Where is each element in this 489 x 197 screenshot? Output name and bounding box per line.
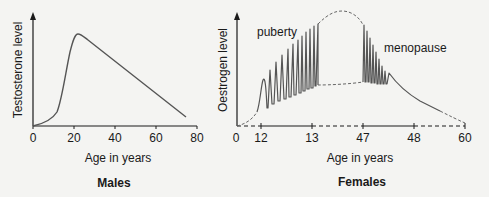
females-x-label: Age in years — [327, 151, 394, 165]
males-y-axis-arrow-icon — [30, 12, 36, 20]
females-xtick-47: 47 — [356, 131, 370, 145]
females-caption: Females — [338, 175, 386, 189]
males-chart: 0 20 40 60 80 Testosterone level Age in … — [11, 12, 204, 190]
oestrogen-baseline-dashed — [318, 82, 363, 85]
males-xtick-80: 80 — [190, 131, 204, 145]
females-chart: 0 12 13 47 48 60 puberty menopause Oestr… — [216, 11, 472, 189]
males-xtick-40: 40 — [108, 131, 122, 145]
hormone-charts: 0 20 40 60 80 Testosterone level Age in … — [0, 0, 489, 197]
females-xtick-60: 60 — [458, 131, 472, 145]
males-xtick-20: 20 — [67, 131, 81, 145]
testosterone-curve — [33, 34, 186, 126]
oestrogen-peak-envelope-dashed — [318, 11, 363, 25]
menopause-annotation: menopause — [384, 41, 447, 55]
females-y-axis-arrow-icon — [234, 12, 240, 20]
females-xtick-48: 48 — [407, 131, 421, 145]
males-xtick-60: 60 — [149, 131, 163, 145]
oestrogen-prepuberty-dashed — [237, 112, 257, 126]
females-y-label: Oestrogen level — [216, 28, 230, 112]
males-caption: Males — [97, 176, 131, 190]
females-xtick-13: 13 — [305, 131, 319, 145]
males-y-label: Testosterone level — [11, 22, 25, 119]
males-xtick-0: 0 — [30, 131, 37, 145]
oestrogen-menopause-cycles — [363, 25, 440, 111]
females-xtick-0: 0 — [233, 131, 240, 145]
oestrogen-postmenopause-dashed — [440, 111, 465, 123]
females-xtick-12: 12 — [254, 131, 268, 145]
puberty-annotation: puberty — [257, 25, 297, 39]
males-x-label: Age in years — [85, 151, 152, 165]
